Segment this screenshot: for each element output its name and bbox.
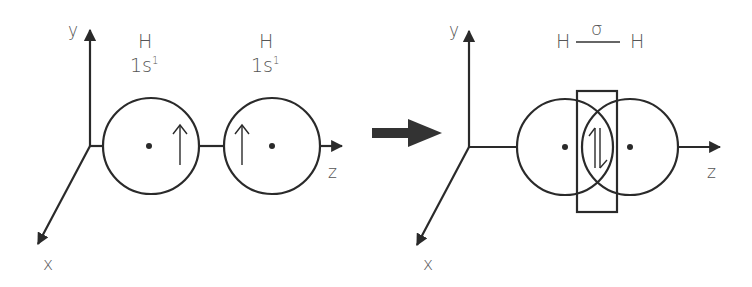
bond-left-atom: H [556, 30, 570, 52]
y-axis-label: y [68, 20, 78, 40]
paired-spins-icon [589, 128, 607, 168]
y-axis-label: y [449, 20, 459, 40]
left-axes [38, 30, 342, 244]
atom-2: H 1s1 [224, 30, 320, 194]
x-axis-arrow [417, 147, 469, 245]
right-panel-sigma-bond: y x z H σ H [417, 18, 720, 274]
x-axis-arrow [38, 146, 90, 244]
atom-1: H 1s1 [103, 30, 199, 194]
nucleus-dot [269, 143, 275, 149]
bond-right-atom: H [630, 30, 644, 52]
x-axis-label: x [423, 254, 433, 274]
spin-up-arrow-icon [173, 125, 187, 165]
nucleus-dot [146, 143, 152, 149]
atom-1-symbol: H [138, 30, 152, 52]
right-axes [417, 31, 720, 245]
atom-2-symbol: H [259, 30, 273, 52]
left-panel-separate-atoms: y x z H 1s1 H 1s1 [38, 20, 342, 274]
z-axis-label: z [707, 162, 716, 182]
x-axis-label: x [43, 254, 53, 274]
spin-up-arrow-icon [235, 125, 249, 165]
bond-type-sigma: σ [591, 18, 602, 39]
nucleus-dot-left [562, 144, 568, 150]
h2-sigma-bond-diagram: y x z H 1s1 H 1s1 [0, 0, 752, 287]
nucleus-dot-right [627, 144, 633, 150]
sigma-bond-label: H σ H [556, 18, 644, 52]
atom-2-config: 1s1 [251, 54, 279, 76]
right-arrow-icon [372, 119, 442, 147]
atom-1-config: 1s1 [130, 54, 158, 76]
z-axis-label: z [328, 162, 337, 182]
